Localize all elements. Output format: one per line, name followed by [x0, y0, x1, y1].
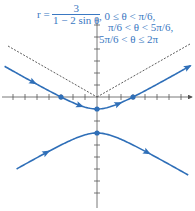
point-marker [94, 130, 99, 135]
direction-arrows [28, 62, 193, 157]
condition-2: π/6 < θ < 5π/6, [108, 22, 173, 33]
fraction-denominator: 1 − 2 sin θ [52, 14, 100, 26]
dashed-line-left [8, 46, 97, 97]
point-marker [58, 94, 63, 99]
point-marker [130, 94, 135, 99]
equation-fraction: 3 1 − 2 sin θ [52, 3, 100, 26]
lower-branch-curve [17, 133, 189, 175]
point-marker [94, 106, 99, 111]
equation-lhs: r = [37, 9, 50, 20]
dashed-line-right [97, 44, 190, 97]
condition-3: 5π/6 < θ ≤ 2π [99, 34, 158, 45]
upper-branch-curve [5, 66, 191, 109]
fraction-numerator: 3 [52, 3, 100, 14]
